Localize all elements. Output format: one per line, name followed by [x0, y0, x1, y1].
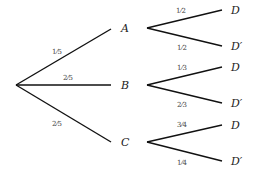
prob-a-d: 1⁄2	[176, 7, 186, 15]
prob-c: 2⁄5	[52, 120, 62, 128]
prob-a: 1⁄5	[52, 48, 62, 56]
node-b-dprime: D′	[230, 97, 243, 110]
prob-b-dprime: 2⁄3	[177, 101, 187, 109]
node-c-dprime: D′	[230, 155, 243, 168]
node-a-d: D	[230, 4, 240, 17]
node-c-d: D	[230, 119, 240, 132]
prob-b-d: 1⁄3	[177, 64, 187, 72]
prob-c-dprime: 1⁄4	[177, 159, 188, 167]
prob-c-d: 3⁄4	[177, 121, 188, 129]
prob-a-dprime: 1⁄2	[177, 44, 187, 52]
node-b: B	[120, 79, 129, 92]
probability-tree: 1⁄5 2⁄5 2⁄5 A B C 1⁄2 1⁄2 D D′ 1⁄3 2⁄3 D…	[0, 0, 255, 178]
node-c: C	[121, 136, 130, 149]
prob-b: 2⁄5	[63, 74, 73, 82]
node-b-d: D	[230, 61, 240, 74]
node-a-dprime: D′	[230, 40, 243, 53]
branch-root-c	[16, 85, 111, 142]
node-a: A	[120, 22, 129, 35]
